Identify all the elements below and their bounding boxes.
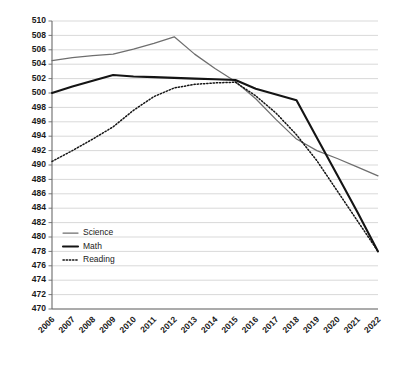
line-chart: 5105085065045025004984964944924904884864…: [0, 0, 403, 372]
y-axis-tick-label: 504: [32, 58, 46, 68]
x-axis-labels-group: 2006200720082009201020112012201320142015…: [36, 314, 383, 335]
x-axis-tick-label: 2010: [117, 314, 138, 335]
y-axis-tick-label: 474: [32, 274, 46, 284]
y-axis-tick-label: 482: [32, 217, 46, 227]
y-axis-tick-label: 510: [32, 15, 46, 25]
x-axis-tick-label: 2006: [36, 314, 57, 335]
x-axis-tick-label: 2020: [321, 314, 342, 335]
y-axis-labels-group: 5105085065045025004984964944924904884864…: [32, 15, 46, 313]
y-axis-tick-label: 500: [32, 87, 46, 97]
y-axis-tick-label: 488: [32, 174, 46, 184]
y-axis-tick-label: 508: [32, 30, 46, 40]
series-line-science: [52, 37, 378, 176]
y-axis-tick-label: 492: [32, 145, 46, 155]
data-series-group: [52, 37, 378, 252]
x-axis-tick-label: 2019: [301, 314, 322, 335]
y-axis-tick-label: 472: [32, 289, 46, 299]
x-axis-tick-label: 2018: [280, 314, 301, 335]
x-axis-tick-label: 2011: [138, 314, 158, 334]
y-axis-tick-label: 486: [32, 188, 46, 198]
x-axis-tick-label: 2017: [260, 314, 281, 335]
x-axis-tick-label: 2007: [56, 314, 77, 335]
y-axis-tick-label: 484: [32, 202, 46, 212]
chart-legend: ScienceMathReading: [63, 227, 115, 264]
x-axis-tick-label: 2013: [179, 314, 200, 335]
y-axis-tick-label: 470: [32, 303, 46, 313]
y-axis-tick-label: 476: [32, 260, 46, 270]
y-axis-tick-label: 502: [32, 73, 46, 83]
x-axis-tick-label: 2008: [77, 314, 98, 335]
legend-label-science: Science: [83, 227, 114, 237]
chart-plot-area: 5105085065045025004984964944924904884864…: [0, 0, 403, 372]
y-axis-tick-label: 494: [32, 130, 46, 140]
y-axis-tick-label: 490: [32, 159, 46, 169]
y-axis-tick-label: 480: [32, 231, 46, 241]
y-axis-tick-label: 478: [32, 246, 46, 256]
gridlines-group: [52, 21, 378, 309]
x-axis-tick-label: 2016: [240, 314, 261, 335]
y-axis-tick-label: 506: [32, 44, 46, 54]
x-axis-tick-label: 2012: [158, 314, 179, 335]
legend-label-reading: Reading: [83, 254, 115, 264]
y-axis-tick-label: 496: [32, 116, 46, 126]
y-axis-tick-label: 498: [32, 102, 46, 112]
x-axis-tick-label: 2009: [97, 314, 118, 335]
x-axis-tick-label: 2022: [362, 314, 383, 335]
series-line-math: [52, 75, 378, 251]
x-axis-tick-label: 2014: [199, 314, 220, 335]
x-axis-tick-label: 2015: [219, 314, 240, 335]
x-axis-tick-label: 2021: [342, 314, 363, 335]
legend-label-math: Math: [83, 241, 102, 251]
